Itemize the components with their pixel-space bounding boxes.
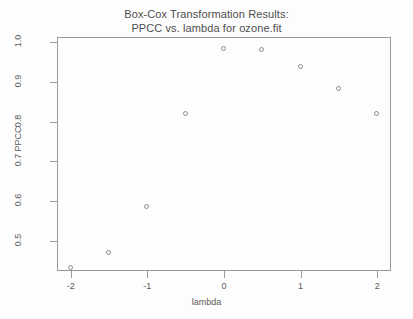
data-point [106, 250, 111, 255]
y-axis-tick [50, 161, 57, 162]
y-axis-tick [50, 82, 57, 83]
chart-screenshot: Box-Cox Transformation Results: PPCC vs.… [0, 0, 413, 319]
y-axis-tick [50, 241, 57, 242]
x-axis-tick [377, 271, 378, 278]
data-point [336, 86, 341, 91]
y-axis-tick-label: 1.0 [13, 21, 23, 61]
data-point [68, 265, 73, 270]
x-axis-tick-label: 2 [357, 281, 397, 291]
data-point [374, 111, 379, 116]
title-line-1: Box-Cox Transformation Results: [0, 7, 413, 21]
y-axis-title: PPCC [13, 109, 23, 169]
x-axis-tick-label: 1 [281, 281, 321, 291]
y-axis-tick [50, 42, 57, 43]
data-point [144, 204, 149, 209]
x-axis-tick-label: 0 [204, 281, 244, 291]
data-point [259, 47, 264, 52]
data-points-layer [57, 37, 391, 271]
x-axis-tick [301, 271, 302, 278]
y-axis-tick [50, 122, 57, 123]
page-title: Box-Cox Transformation Results: PPCC vs.… [0, 7, 413, 35]
y-axis-tick-label: 0.9 [13, 61, 23, 101]
x-axis-tick [224, 271, 225, 278]
x-axis-tick-label: -2 [51, 281, 91, 291]
x-axis-title: lambda [0, 297, 413, 307]
title-line-2: PPCC vs. lambda for ozone.fit [0, 21, 413, 35]
data-point [183, 111, 188, 116]
y-axis-tick-label: 0.6 [13, 180, 23, 220]
x-axis-tick [147, 271, 148, 278]
data-point [298, 64, 303, 69]
x-axis-tick-label: -1 [127, 281, 167, 291]
y-axis-tick [50, 201, 57, 202]
x-axis-tick [71, 271, 72, 278]
y-axis-tick-label: 0.5 [13, 220, 23, 260]
data-point [221, 46, 226, 51]
